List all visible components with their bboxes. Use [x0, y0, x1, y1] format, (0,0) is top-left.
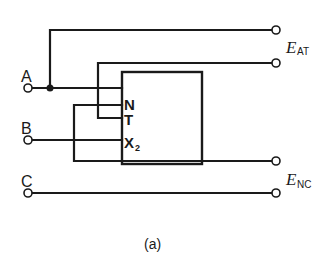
- junction-dot: [47, 85, 54, 92]
- terminal-eat-bottom: [272, 59, 280, 67]
- terminal-enc-bottom: [272, 189, 280, 197]
- figure-caption: (a): [144, 236, 161, 252]
- label-output-enc-symbol: E: [285, 170, 297, 189]
- label-terminal-t: T: [124, 111, 133, 128]
- wire-a-to-eat-top: [50, 30, 272, 88]
- label-terminal-x: X: [124, 134, 134, 151]
- wire-n-loop: [74, 105, 272, 161]
- label-output-eat-subscript: AT: [297, 46, 309, 57]
- label-output-eat-symbol: E: [285, 38, 297, 57]
- label-output-enc-subscript: NC: [297, 179, 311, 190]
- label-input-b: B: [21, 120, 32, 137]
- label-input-a: A: [21, 68, 32, 85]
- terminal-b: [24, 136, 32, 144]
- terminal-a: [24, 84, 32, 92]
- terminal-enc-top: [272, 157, 280, 165]
- terminal-eat-top: [272, 26, 280, 34]
- label-terminal-x-subscript: 2: [135, 143, 140, 153]
- terminal-c: [24, 189, 32, 197]
- label-input-c: C: [21, 173, 33, 190]
- circuit-diagram: A B C N T X 2 E AT E NC (a): [0, 0, 332, 261]
